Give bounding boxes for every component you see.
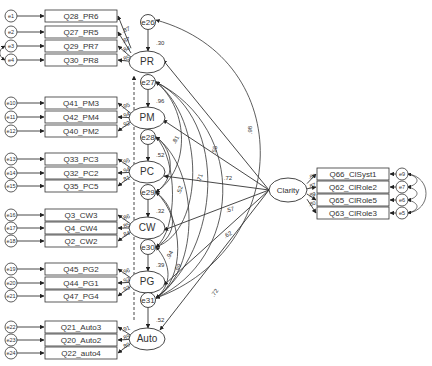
covariance-label: .94 xyxy=(165,249,175,260)
indicator-label: Q40_PM2 xyxy=(63,127,100,136)
error-label: e13 xyxy=(6,156,15,162)
error-label: e3 xyxy=(8,43,14,49)
indicator-label: Q20_Auto2 xyxy=(61,336,102,345)
error-label: e19 xyxy=(6,266,15,272)
indicator-label: Q2_CW2 xyxy=(65,237,98,246)
disturbance-label: e30 xyxy=(141,243,155,252)
structural-weight: .57 xyxy=(225,205,235,213)
error-label: e4 xyxy=(8,57,14,63)
error-covariance xyxy=(408,187,417,200)
error-label: e20 xyxy=(6,280,15,286)
indicator-label: Q27_PR5 xyxy=(63,28,99,37)
error-label: e16 xyxy=(6,212,15,218)
indicator-label: Q41_PM3 xyxy=(63,99,100,108)
error-label: e12 xyxy=(6,128,15,134)
loading-label: .87 xyxy=(307,181,316,189)
indicator-label: Q4_CW4 xyxy=(65,224,98,233)
error-label: e18 xyxy=(6,238,15,244)
indicator-label: Q32_PC2 xyxy=(63,169,99,178)
latent-label: PG xyxy=(140,276,155,287)
indicator-label: Q62_ClRole2 xyxy=(329,183,378,192)
disturbance-weight: .32 xyxy=(156,208,165,214)
error-label: e14 xyxy=(6,170,15,176)
covariance-label: .98 xyxy=(247,125,253,134)
latent-label: CW xyxy=(139,222,156,233)
disturbance-label: e29 xyxy=(141,188,155,197)
indicator-label: Q47_PG4 xyxy=(63,292,99,301)
indicator-label: Q66_ClSyst1 xyxy=(329,170,377,179)
error-label: e21 xyxy=(6,293,15,299)
error-label: e9 xyxy=(399,171,405,177)
disturbance-weight: .52 xyxy=(156,152,165,158)
structural-path-pg xyxy=(164,190,269,285)
loading-label: .86 xyxy=(121,213,132,222)
error-label: e15 xyxy=(6,183,15,189)
indicator-label: Q30_PR8 xyxy=(63,56,99,65)
disturbance-label: e27 xyxy=(141,78,155,87)
indicator-label: Q42_PM4 xyxy=(63,113,100,122)
structural-path-pr xyxy=(163,60,269,190)
disturbance-label: e28 xyxy=(141,133,155,142)
latent-label: Clarity xyxy=(277,186,300,195)
loading-label: .91 xyxy=(121,324,132,333)
loading-label: .95 xyxy=(121,101,132,110)
indicator-label: Q44_PG1 xyxy=(63,279,99,288)
error-label: e24 xyxy=(6,350,15,356)
latent-label: PM xyxy=(140,112,155,123)
structural-weight: .72 xyxy=(224,175,233,181)
error-label: e17 xyxy=(6,225,15,231)
disturbance-label: e26 xyxy=(141,18,155,27)
loading-label: .89 xyxy=(307,191,316,199)
disturbance-weight: .30 xyxy=(156,40,165,46)
loading-label: .96 xyxy=(121,267,132,276)
sem-diagram: e26PRe1Q28_PR6e2Q27_PR5e3Q29_PR7e4Q30_PR… xyxy=(0,0,432,366)
indicator-label: Q45_PG2 xyxy=(63,265,99,274)
indicator-label: Q65_ClRole5 xyxy=(329,196,378,205)
loading-label: .95 xyxy=(121,157,132,166)
disturbance-weight: .52 xyxy=(156,317,165,323)
disturbance-weight: .96 xyxy=(156,98,165,104)
error-label: e7 xyxy=(399,184,405,190)
loading-label: .80 xyxy=(307,200,316,208)
indicator-label: Q21_Auto3 xyxy=(61,323,102,332)
covariance-label: .52 xyxy=(175,184,184,195)
nodes: e26PRe1Q28_PR6e2Q27_PR5e3Q29_PR7e4Q30_PR… xyxy=(5,10,408,359)
error-label: e11 xyxy=(7,114,16,120)
indicator-label: Q29_PR7 xyxy=(63,42,99,51)
disturbance-covariance xyxy=(156,82,223,298)
error-label: e10 xyxy=(6,100,15,106)
latent-label: Auto xyxy=(137,333,158,344)
covariance-label: .81 xyxy=(171,134,181,145)
latent-label: PC xyxy=(140,166,154,177)
disturbance-weight: .39 xyxy=(156,262,165,268)
indicator-label: Q3_CW3 xyxy=(65,211,98,220)
disturbance-label: e31 xyxy=(141,296,155,305)
latent-label: PR xyxy=(140,56,154,67)
loading-label: .88 xyxy=(307,172,316,180)
loading-label: .87 xyxy=(121,36,132,45)
indicator-label: Q22_auto4 xyxy=(61,349,101,358)
error-covariance xyxy=(0,46,5,60)
error-label: e2 xyxy=(8,29,14,35)
structural-weight: .72 xyxy=(210,287,220,298)
indicator-label: Q35_PC5 xyxy=(63,182,99,191)
indicator-label: Q28_PR6 xyxy=(63,12,99,21)
indicator-label: Q33_PC3 xyxy=(63,155,99,164)
indicator-label: Q63_ClRole3 xyxy=(329,209,378,218)
error-label: e1 xyxy=(8,13,14,19)
error-label: e23 xyxy=(6,337,15,343)
error-label: e6 xyxy=(399,197,405,203)
error-label: e5 xyxy=(399,210,405,216)
error-label: e22 xyxy=(6,324,15,330)
